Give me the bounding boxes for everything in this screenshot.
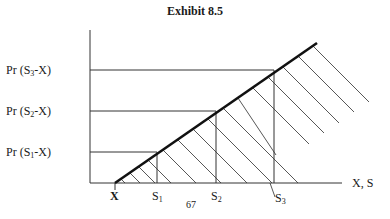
y-label-s1: Pr (S1-X)	[6, 145, 51, 160]
x-label-s3: S3	[275, 191, 286, 206]
payoff-diagram	[0, 0, 390, 219]
x-label-s1: S1	[152, 189, 163, 204]
y-label-s3: Pr (S3-X)	[6, 63, 51, 78]
page-number: 67	[186, 199, 196, 210]
x-axis-label: X, S	[352, 176, 373, 191]
x-label-s2: S2	[211, 189, 222, 204]
x-label-origin: X	[110, 189, 119, 204]
y-label-s2: Pr (S2-X)	[6, 104, 51, 119]
hatch-lines	[121, 46, 369, 183]
